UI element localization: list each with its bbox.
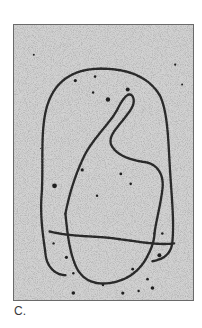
panel-label: C. (14, 304, 26, 318)
grain-background (14, 25, 193, 300)
micrograph-image (14, 25, 193, 300)
micrograph-panel (13, 24, 194, 301)
